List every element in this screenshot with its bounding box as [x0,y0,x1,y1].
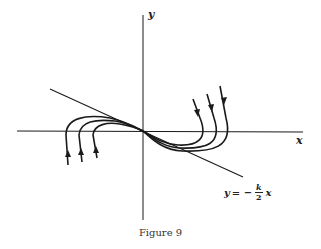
equation-lhs: y [224,187,230,198]
equation-fraction: k 2 [255,183,263,202]
line-equation-label: y = − k 2 x [224,183,272,202]
figure-caption: Figure 9 [0,227,321,238]
left-trajectories [66,117,143,165]
x-axis-label: x [296,134,303,147]
x-axis [17,131,303,132]
equation-variable: x [266,187,272,198]
equation-operator: = − [232,187,252,198]
phase-diagram: y x y = − k 2 x Figure 9 [0,0,321,249]
fraction-denominator: 2 [256,193,262,202]
y-axis-label: y [148,8,154,21]
diagram-canvas [0,0,321,249]
right-trajectories [143,86,228,151]
